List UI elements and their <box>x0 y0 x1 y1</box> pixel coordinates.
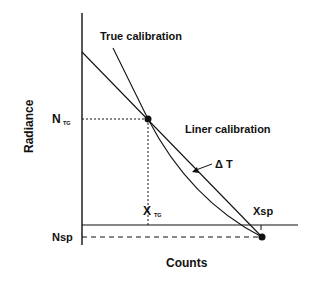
x-axis-label: Counts <box>166 256 208 270</box>
delta-t-label: Δ T <box>215 158 233 170</box>
y-axis-label: Radiance <box>22 99 36 153</box>
linear-calibration-label: Liner calibration <box>185 123 271 135</box>
xsp-point <box>259 234 266 241</box>
nsp-label: Nsp <box>52 231 73 243</box>
true-calibration-label: True calibration <box>100 30 182 42</box>
n-tg-point <box>145 116 152 123</box>
x-tg-subscript: TG <box>154 212 162 218</box>
x-tg-label: X <box>143 204 151 218</box>
delta-t-arrow-line <box>196 164 212 170</box>
n-tg-label: N <box>52 112 61 126</box>
true-calibration-curve <box>113 48 262 237</box>
xsp-label: Xsp <box>253 205 273 217</box>
n-tg-subscript: TG <box>63 120 71 126</box>
calibration-diagram: True calibration Liner calibration Δ T R… <box>0 0 318 285</box>
linear-calibration-line <box>82 52 262 237</box>
